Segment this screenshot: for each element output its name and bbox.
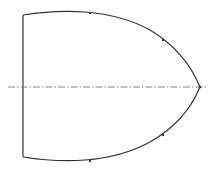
tip-point	[199, 86, 201, 88]
marker-dot	[162, 39, 164, 41]
marker-dot	[89, 12, 91, 14]
marker-dot	[162, 134, 164, 136]
lower-arc	[23, 87, 200, 161]
marker-dot	[89, 160, 91, 162]
diagram-canvas	[0, 0, 212, 173]
ogive-diagram	[0, 0, 212, 173]
upper-arc	[23, 11, 200, 87]
